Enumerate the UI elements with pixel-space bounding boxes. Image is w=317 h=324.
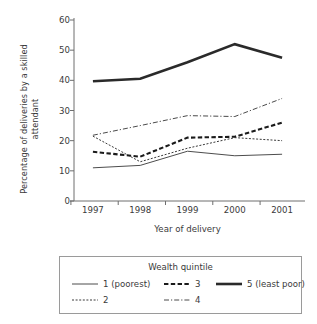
y-tick-label-0: 0: [48, 196, 70, 206]
x-axis-label: Year of delivery: [74, 224, 301, 234]
y-tick-label-2: 20: [48, 136, 70, 146]
legend-swatch-q4: [164, 295, 190, 305]
x-tick-label-0: 1997: [82, 205, 104, 215]
legend-label-q2: 2: [103, 295, 108, 305]
plot-area: [74, 20, 301, 201]
series-lines: [93, 44, 282, 168]
legend-swatch-q5: [216, 279, 242, 289]
legend-label-q4: 4: [195, 295, 200, 305]
legend: Wealth quintile 1 (poorest) 2 3 4 5 (lea…: [59, 256, 302, 314]
series-line-q2: [93, 136, 282, 162]
x-axis-tick-labels: 19971998199920002001: [74, 205, 301, 219]
y-axis-label-line2: attendant: [30, 19, 41, 219]
legend-label-q1: 1 (poorest): [103, 279, 150, 289]
y-tick-label-1: 10: [48, 166, 70, 176]
legend-swatch-q2: [72, 295, 98, 305]
axes: [70, 18, 305, 205]
legend-label-q5: 5 (least poor): [247, 279, 305, 289]
legend-item-q4[interactable]: 4: [164, 295, 200, 305]
y-tick-label-5: 50: [48, 45, 70, 55]
x-tick-label-4: 2001: [271, 205, 293, 215]
y-axis-label: Percentage of deliveries by a skilled at…: [19, 19, 41, 219]
legend-swatch-q1: [72, 279, 98, 289]
legend-title: Wealth quintile: [60, 262, 301, 272]
y-axis-label-line1: Percentage of deliveries by a skilled: [19, 44, 29, 194]
series-line-q4: [93, 98, 282, 135]
chart-svg: [74, 20, 301, 201]
y-axis-tick-labels: 0102030405060: [46, 20, 70, 201]
legend-label-q3: 3: [195, 279, 200, 289]
x-tick-label-2: 1999: [177, 205, 199, 215]
y-tick-label-6: 60: [48, 15, 70, 25]
legend-item-q1[interactable]: 1 (poorest): [72, 279, 150, 289]
chart-figure: Percentage of deliveries by a skilled at…: [0, 0, 317, 324]
y-tick-label-4: 40: [48, 75, 70, 85]
x-tick-label-3: 2000: [224, 205, 246, 215]
legend-item-q5[interactable]: 5 (least poor): [216, 279, 305, 289]
x-tick-label-1: 1998: [129, 205, 151, 215]
legend-item-q2[interactable]: 2: [72, 295, 108, 305]
legend-item-q3[interactable]: 3: [164, 279, 200, 289]
series-line-q5: [93, 44, 282, 81]
legend-swatch-q3: [164, 279, 190, 289]
y-tick-label-3: 30: [48, 106, 70, 116]
